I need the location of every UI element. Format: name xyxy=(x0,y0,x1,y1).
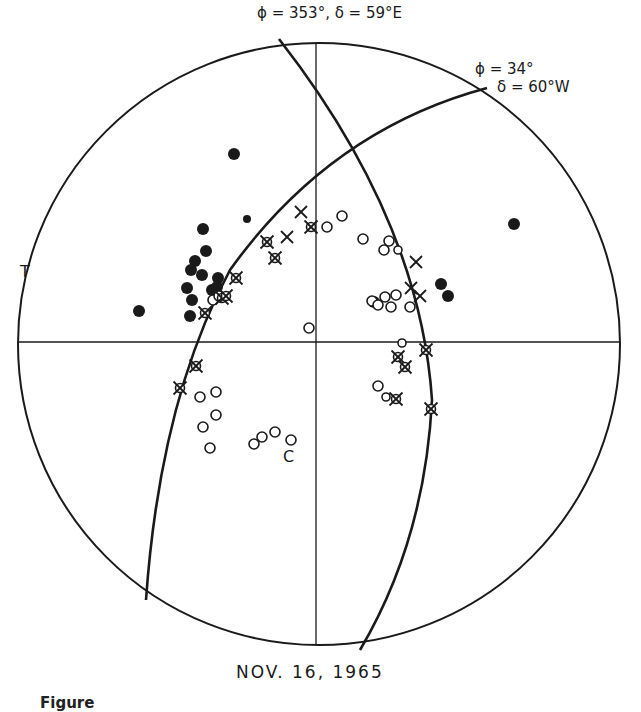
dilatation-point xyxy=(405,302,415,312)
dilatation-point xyxy=(304,323,314,333)
compression-point xyxy=(200,245,212,257)
plane2-strike-label: ϕ = 34° xyxy=(475,60,534,78)
compression-axis-label: C xyxy=(283,447,294,466)
outer-circle xyxy=(18,43,620,645)
dilatation-point xyxy=(373,381,383,391)
plane1-label: ϕ = 353°, δ = 59°E xyxy=(257,4,402,22)
circled-x-point xyxy=(261,236,274,249)
circled-x-point xyxy=(190,360,203,373)
circled-x-point xyxy=(425,403,438,416)
dilatation-point xyxy=(211,410,221,420)
dilatation-point xyxy=(257,432,267,442)
compression-point xyxy=(442,290,454,302)
dilatation-point xyxy=(398,339,406,347)
compression-point xyxy=(196,269,208,281)
circled-x-point xyxy=(230,272,243,285)
dilatation-point xyxy=(286,435,296,445)
nodal-x-point xyxy=(414,290,426,302)
plane2-dip-label: δ = 60°W xyxy=(497,78,570,96)
circled-x-point xyxy=(174,382,187,395)
compression-point xyxy=(184,310,196,322)
compression-point xyxy=(435,278,447,290)
dilatation-point xyxy=(195,392,205,402)
compression-point xyxy=(228,148,240,160)
dilatation-point xyxy=(380,292,390,302)
stereonet-frame xyxy=(18,43,620,645)
compression-point xyxy=(186,294,198,306)
compression-point xyxy=(243,215,251,223)
nodal-x-point xyxy=(410,256,422,268)
dilatation-point xyxy=(198,422,208,432)
dilatation-point xyxy=(394,246,402,254)
dilatation-point xyxy=(386,302,396,312)
compression-point xyxy=(181,282,193,294)
dilatation-point xyxy=(337,211,347,221)
dilatation-point xyxy=(358,234,368,244)
circled-x-point xyxy=(390,393,403,406)
dilatation-point xyxy=(211,387,221,397)
tension-axis-label: T xyxy=(20,262,30,281)
first-motion-points xyxy=(133,148,520,453)
circled-x-point xyxy=(420,344,433,357)
circled-x-point xyxy=(392,351,405,364)
dilatation-point xyxy=(322,222,332,232)
figure-caption-fragment: Figure xyxy=(40,694,94,712)
compression-point xyxy=(197,223,209,235)
compression-point xyxy=(508,218,520,230)
dilatation-point xyxy=(205,443,215,453)
circled-x-point xyxy=(305,221,318,234)
circled-x-point xyxy=(399,361,412,374)
nodal-plane-1 xyxy=(279,39,432,650)
dilatation-point xyxy=(379,245,389,255)
nodal-x-point xyxy=(295,206,307,218)
circled-x-point xyxy=(269,252,282,265)
circled-x-point xyxy=(199,307,212,320)
dilatation-point xyxy=(270,427,280,437)
compression-point xyxy=(133,305,145,317)
nodal-x-point xyxy=(281,231,293,243)
event-date-label: NOV. 16, 1965 xyxy=(236,662,384,682)
compression-point xyxy=(185,264,197,276)
dilatation-point xyxy=(382,393,390,401)
circled-x-point xyxy=(220,290,233,303)
dilatation-point xyxy=(391,290,401,300)
